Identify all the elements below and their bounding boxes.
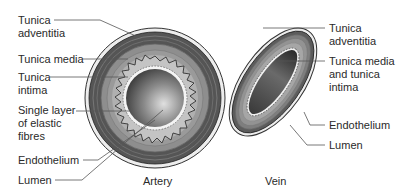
artery-label-tunica-intima: Tunica intima [18,71,51,97]
artery-label-tunica-adventitia: Tunica adventitia [18,14,65,40]
vein-cross-section [212,13,334,150]
artery-vein-diagram: Tunica adventitia Tunica media Tunica in… [0,0,405,196]
artery-label-tunica-media: Tunica media [18,53,84,66]
artery-lumen [126,69,184,127]
vein-label-lumen: Lumen [329,139,363,152]
artery-label-endothelium: Endothelium [18,154,79,167]
vein-label-tunica-media-intima: Tunica media and tunica intima [329,55,395,94]
artery-label-elastic-fibres: Single layer of elastic fibres [18,104,75,143]
vein-label-tunica-adventitia: Tunica adventitia [329,22,376,48]
vein-title: Vein [265,175,286,188]
vein-label-endothelium: Endothelium [329,119,390,132]
artery-cross-section [85,28,225,168]
artery-title: Artery [143,175,172,188]
artery-label-lumen: Lumen [18,174,52,187]
